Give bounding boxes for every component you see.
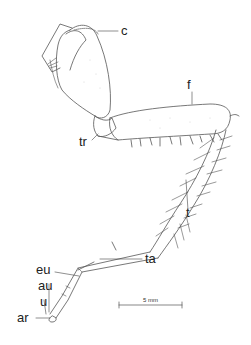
label-u: u <box>40 295 47 308</box>
leader-lines <box>36 31 192 318</box>
leg-illustration <box>0 0 251 345</box>
label-ar: ar <box>17 311 29 324</box>
label-femur: f <box>187 78 191 91</box>
label-eu: eu <box>36 263 50 276</box>
label-coxa: c <box>121 24 128 37</box>
label-trochanter: tr <box>79 135 87 148</box>
label-tarsus: ta <box>145 252 156 265</box>
scale-bar-label: 5 mm <box>143 297 158 303</box>
femur <box>109 104 239 147</box>
label-tibia: t <box>186 206 190 219</box>
tarsus <box>49 242 158 322</box>
label-au: au <box>38 279 52 292</box>
tibia <box>150 130 232 258</box>
coxa <box>42 24 110 118</box>
